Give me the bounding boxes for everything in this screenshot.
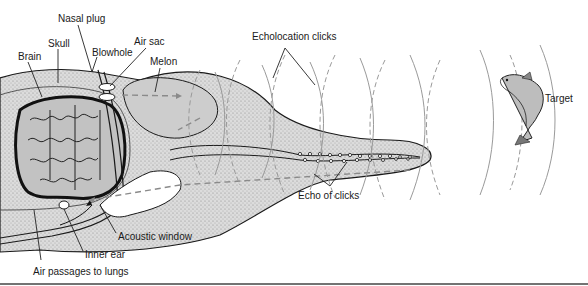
air-sac-upper xyxy=(99,84,115,91)
label-melon: Melon xyxy=(150,56,177,67)
inner-ear xyxy=(59,201,69,209)
label-air-sac: Air sac xyxy=(134,36,165,47)
echolocation-diagram: Nasal plug Skull Blowhole Air sac Brain … xyxy=(0,0,588,286)
brain xyxy=(16,97,125,199)
label-acoustic-window: Acoustic window xyxy=(118,231,193,242)
label-target: Target xyxy=(545,93,573,104)
label-air-passages: Air passages to lungs xyxy=(33,266,129,277)
label-echolocation-clicks: Echolocation clicks xyxy=(252,31,336,42)
label-inner-ear: Inner ear xyxy=(85,249,126,260)
label-brain: Brain xyxy=(18,51,41,62)
air-sac-lower xyxy=(99,94,115,101)
label-echo-of-clicks: Echo of clicks xyxy=(298,190,359,201)
label-skull: Skull xyxy=(48,38,70,49)
label-blowhole: Blowhole xyxy=(92,47,133,58)
label-nasal-plug: Nasal plug xyxy=(58,13,105,24)
